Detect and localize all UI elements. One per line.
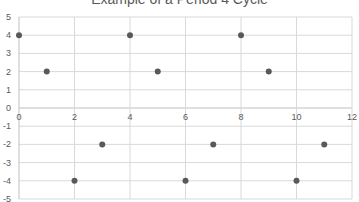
data-point <box>294 178 300 184</box>
data-point <box>183 178 189 184</box>
data-point <box>72 178 78 184</box>
data-point <box>99 141 105 147</box>
x-tick-label: 8 <box>238 112 243 122</box>
y-tick-label: 0 <box>6 103 11 113</box>
scatter-plot: 543210-1-2-3-4-5024681012 <box>0 0 359 202</box>
y-tick-label: -3 <box>3 158 11 168</box>
data-point <box>321 141 327 147</box>
x-tick-label: 2 <box>72 112 77 122</box>
y-tick-label: -5 <box>3 194 11 202</box>
data-point <box>16 32 22 38</box>
data-point <box>210 141 216 147</box>
x-tick-label: 0 <box>16 112 21 122</box>
y-tick-label: 2 <box>6 67 11 77</box>
y-tick-label: 3 <box>6 48 11 58</box>
data-point <box>266 69 272 75</box>
x-tick-label: 12 <box>347 112 357 122</box>
x-tick-label: 10 <box>291 112 301 122</box>
y-tick-label: -1 <box>3 121 11 131</box>
data-point <box>238 32 244 38</box>
data-point <box>155 69 161 75</box>
y-tick-label: 1 <box>6 85 11 95</box>
data-point <box>127 32 133 38</box>
y-tick-label: 5 <box>6 12 11 22</box>
x-tick-label: 6 <box>183 112 188 122</box>
y-tick-label: -2 <box>3 139 11 149</box>
y-tick-label: -4 <box>3 176 11 186</box>
x-tick-label: 4 <box>127 112 132 122</box>
y-tick-label: 4 <box>6 30 11 40</box>
data-point <box>44 69 50 75</box>
